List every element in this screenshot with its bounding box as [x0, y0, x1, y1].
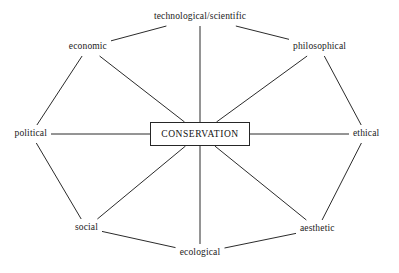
center-node-label: CONSERVATION — [151, 123, 249, 145]
node-label-aesthetic[interactable]: aesthetic — [300, 224, 335, 234]
node-label-ecological[interactable]: ecological — [180, 248, 221, 258]
perimeter-social-to-political — [36, 143, 81, 219]
perimeter-ethical-to-aesthetic — [322, 143, 361, 220]
spoke-center-to-economic — [100, 56, 185, 122]
node-label-economic[interactable]: economic — [69, 42, 107, 52]
spoke-center-to-philosophical — [216, 56, 307, 122]
node-label-political[interactable]: political — [15, 129, 47, 139]
center-node-box[interactable]: CONSERVATION — [150, 122, 250, 146]
perimeter-technological-to-philosophical — [236, 26, 289, 39]
node-label-philosophical[interactable]: philosophical — [293, 42, 346, 52]
perimeter-economic-to-technological — [111, 26, 166, 41]
node-label-technological[interactable]: technological/scientific — [154, 12, 246, 22]
perimeter-political-to-economic — [37, 56, 82, 125]
perimeter-ecological-to-social — [102, 231, 176, 247]
spoke-center-to-aesthetic — [215, 146, 307, 220]
spoke-center-to-social — [97, 146, 185, 219]
perimeter-aesthetic-to-ecological — [225, 233, 297, 248]
diagram-page: CONSERVATION technological/scientificphi… — [0, 0, 399, 273]
node-label-social[interactable]: social — [75, 223, 98, 233]
node-label-ethical[interactable]: ethical — [353, 129, 379, 139]
perimeter-philosophical-to-ethical — [324, 56, 361, 125]
